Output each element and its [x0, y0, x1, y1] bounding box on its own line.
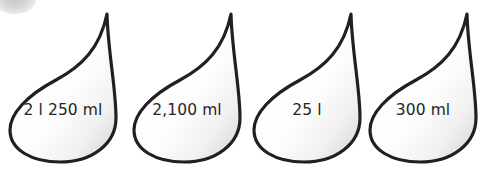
droplet-label: 25 l — [248, 100, 366, 120]
droplet-item[interactable]: 25 l — [248, 8, 366, 166]
water-droplet-icon — [4, 8, 122, 166]
droplet-label: 300 ml — [364, 100, 480, 120]
worksheet-canvas: 2 l 250 ml 2,100 ml 25 l 300 ml — [0, 0, 480, 174]
water-droplet-icon — [364, 8, 480, 166]
water-droplet-icon — [128, 8, 246, 166]
droplet-group: 2 l 250 ml 2,100 ml 25 l 300 ml — [0, 0, 480, 174]
droplet-label: 2,100 ml — [128, 100, 246, 120]
droplet-item[interactable]: 300 ml — [364, 8, 480, 166]
droplet-item[interactable]: 2,100 ml — [128, 8, 246, 166]
droplet-label: 2 l 250 ml — [4, 100, 122, 120]
water-droplet-icon — [248, 8, 366, 166]
droplet-item[interactable]: 2 l 250 ml — [4, 8, 122, 166]
